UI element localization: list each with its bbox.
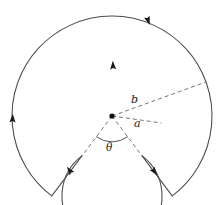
geometry-figure: b a θ — [0, 0, 219, 205]
left-radial-edge — [52, 156, 82, 196]
right-radial-edge — [142, 156, 172, 196]
outer-arc — [12, 16, 212, 196]
inner-arc-top-arrow — [110, 61, 116, 70]
outer-radius-dashed-line — [112, 82, 206, 116]
gap-angle-label: θ — [106, 142, 112, 153]
center-point — [109, 113, 114, 118]
inner-radius-label: a — [134, 118, 141, 129]
outer-radius-label: b — [131, 94, 138, 105]
left-radial-arrow — [64, 165, 74, 175]
annular-sector-drawing — [0, 0, 219, 205]
